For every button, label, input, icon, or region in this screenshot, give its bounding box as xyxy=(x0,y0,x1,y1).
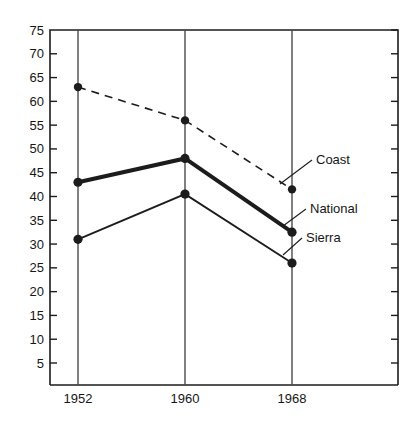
y-axis-tick-label: 25 xyxy=(30,260,44,275)
y-axis-tick-label: 50 xyxy=(30,141,44,156)
line-chart-figure: 51015202530354045505560657075 1952196019… xyxy=(0,0,417,424)
y-axis-tick-label: 5 xyxy=(37,356,44,371)
data-point-national-1960 xyxy=(180,154,189,163)
data-point-national-1968 xyxy=(287,228,296,237)
vertical-gridlines xyxy=(78,30,292,385)
data-point-sierra-1952 xyxy=(73,235,82,244)
y-axis-tick-label: 45 xyxy=(30,165,44,180)
series-label-sierra: Sierra xyxy=(306,230,341,245)
y-axis-tick-marks xyxy=(50,54,57,363)
x-axis-tick-label: 1968 xyxy=(278,391,307,406)
y-axis-tick-label: 60 xyxy=(30,94,44,109)
y-axis-tick-label: 40 xyxy=(30,189,44,204)
y-axis-tick-label: 10 xyxy=(30,332,44,347)
data-point-coast-1960 xyxy=(181,116,189,124)
chart-canvas: 51015202530354045505560657075 1952196019… xyxy=(0,0,417,424)
y-axis-tick-label: 70 xyxy=(30,46,44,61)
series-labels-group: CoastNationalSierra xyxy=(306,152,358,245)
y-axis-tick-label: 20 xyxy=(30,284,44,299)
data-point-coast-1952 xyxy=(74,83,82,91)
y-axis-tick-label: 15 xyxy=(30,308,44,323)
y-axis-tick-marks-right xyxy=(391,30,398,363)
data-point-sierra-1968 xyxy=(287,259,296,268)
x-axis-tick-labels: 195219601968 xyxy=(64,391,307,406)
x-axis-tick-label: 1960 xyxy=(171,391,200,406)
leader-line-national xyxy=(283,209,306,226)
data-point-coast-1968 xyxy=(288,185,296,193)
series-label-coast: Coast xyxy=(316,152,350,167)
series-label-national: National xyxy=(310,201,358,216)
data-point-sierra-1960 xyxy=(180,190,189,199)
y-axis-tick-label: 65 xyxy=(30,70,44,85)
x-axis-tick-label: 1952 xyxy=(64,391,93,406)
y-axis-tick-label: 30 xyxy=(30,237,44,252)
data-point-national-1952 xyxy=(73,178,82,187)
y-axis-tick-labels: 51015202530354045505560657075 xyxy=(30,23,44,371)
leader-line-coast xyxy=(280,160,312,184)
y-axis-tick-label: 75 xyxy=(30,23,44,38)
y-axis-tick-label: 55 xyxy=(30,118,44,133)
y-axis-tick-label: 35 xyxy=(30,213,44,228)
